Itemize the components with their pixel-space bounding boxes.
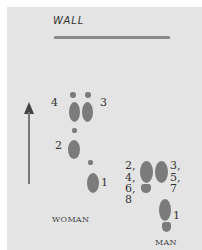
direction-arrow-shaft: [28, 112, 30, 184]
woman-step-1-heel: [88, 160, 93, 165]
man-caption: MAN: [155, 238, 177, 247]
man-label-8: 8: [125, 194, 132, 205]
wall-line: [54, 36, 170, 39]
man-label-2: 2,: [125, 160, 136, 171]
woman-label-2: 2: [55, 140, 62, 151]
man-right-sole: [155, 161, 168, 183]
woman-step-2-sole: [68, 140, 80, 159]
man-left-heel: [141, 184, 151, 193]
man-label-3: 3,: [170, 160, 181, 171]
woman-caption: WOMAN: [52, 215, 89, 224]
man-label-7: 7: [170, 183, 177, 194]
wall-label: WALL: [53, 15, 84, 26]
woman-step-4-heel: [70, 92, 76, 98]
man-step-1-heel: [162, 222, 171, 232]
woman-label-1: 1: [101, 177, 108, 188]
woman-step-3-heel: [85, 92, 91, 98]
man-left-sole: [140, 161, 153, 183]
woman-label-3: 3: [100, 97, 107, 108]
woman-step-3-sole: [82, 102, 93, 122]
man-step-1-sole: [159, 199, 171, 221]
woman-step-1-sole: [87, 173, 99, 193]
woman-label-4: 4: [51, 97, 58, 108]
woman-step-4-sole: [69, 102, 80, 122]
woman-step-2-heel: [72, 128, 77, 133]
man-label-1: 1: [173, 210, 180, 221]
